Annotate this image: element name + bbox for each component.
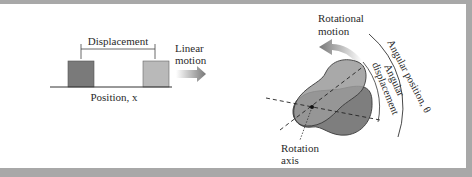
linear-motion-label-1: Linear (175, 42, 204, 54)
end-position-box (143, 61, 169, 87)
rotation-axis-label-1: Rotation (281, 142, 319, 154)
displacement-label: Displacement (88, 35, 148, 47)
linear-motion-label-2: motion (175, 54, 207, 66)
start-position-box (68, 61, 94, 87)
rotational-motion-label-1: Rotational (318, 12, 364, 24)
linear-motion-diagram: Displacement Position, x Linear motion (50, 35, 207, 103)
rotational-motion-label-2: motion (318, 25, 350, 37)
rotation-axis-point (310, 105, 314, 109)
rotational-motion-diagram: Rotational motion Angular position, θ An… (266, 12, 433, 166)
rotation-axis-label-2: axis (281, 154, 299, 166)
position-axis-label: Position, x (90, 91, 138, 103)
linear-motion-arrow-icon (176, 66, 206, 82)
motion-diagram: Displacement Position, x Linear motion R… (0, 0, 472, 177)
